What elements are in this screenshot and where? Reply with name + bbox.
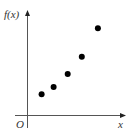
x-axis (15, 113, 126, 118)
data-point (51, 84, 57, 90)
data-point (39, 91, 45, 97)
x-axis-label: x (117, 118, 123, 130)
data-point (79, 54, 85, 60)
data-points (39, 25, 101, 97)
data-point (95, 25, 101, 31)
origin-label: O (16, 118, 24, 130)
scatter-chart: f(x) x O (0, 0, 136, 136)
y-axis (25, 10, 30, 128)
data-point (65, 71, 71, 77)
y-axis-arrow-icon (25, 10, 30, 16)
y-axis-label: f(x) (4, 8, 20, 21)
